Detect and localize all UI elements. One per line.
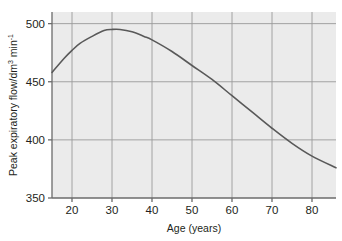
y-axis-title-group: Peak expiratory flow/dm3 min-1: [7, 34, 19, 176]
x-tick-label-20: 20: [66, 204, 79, 216]
x-tick-label-70: 70: [266, 204, 279, 216]
y-axis-title-main: Peak expiratory flow/dm: [7, 64, 19, 176]
y-axis-title: Peak expiratory flow/dm3 min-1: [7, 34, 19, 176]
x-tick-label-40: 40: [146, 204, 159, 216]
y-tick-label-400: 400: [26, 134, 45, 146]
y-tick-label-500: 500: [26, 18, 45, 30]
peak-expiratory-flow-chart: 350400450500 20304050607080 Age (years) …: [0, 0, 342, 241]
chart-figure: 350400450500 20304050607080 Age (years) …: [0, 0, 342, 241]
x-tick-label-30: 30: [106, 204, 119, 216]
plot-area-background: [52, 12, 336, 198]
x-axis-title: Age (years): [167, 222, 221, 234]
y-axis-title-superscript-minus-1: -1: [7, 34, 14, 40]
x-axis-tick-labels: 20304050607080: [66, 204, 319, 216]
y-axis-tick-labels: 350400450500: [26, 18, 45, 204]
y-axis-title-mid: min: [7, 40, 19, 60]
x-tick-label-80: 80: [306, 204, 319, 216]
y-tick-label-450: 450: [26, 76, 45, 88]
y-tick-label-350: 350: [26, 192, 45, 204]
x-tick-label-60: 60: [226, 204, 239, 216]
chart-canvas: 350400450500 20304050607080 Age (years) …: [0, 0, 342, 241]
x-tick-label-50: 50: [186, 204, 199, 216]
